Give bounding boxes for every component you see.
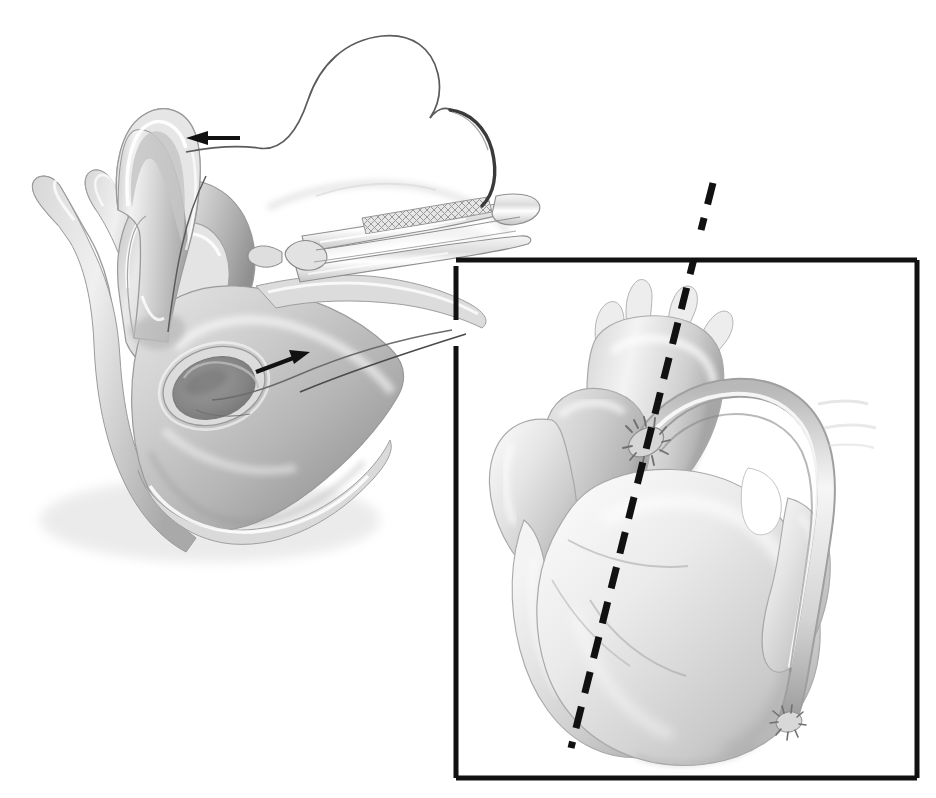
surgical-illustration-figure: Proximal vein graft anastomosis to the a… bbox=[0, 0, 936, 798]
pericardial-window bbox=[741, 468, 781, 535]
sternotomy-dashed-line-overhang bbox=[701, 183, 713, 230]
inset-illustration bbox=[0, 0, 936, 798]
inset-content bbox=[489, 183, 876, 765]
